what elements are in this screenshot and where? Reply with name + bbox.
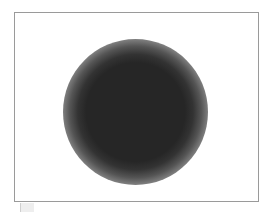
blurred-dark-circle: [63, 39, 208, 185]
corner-tab: [20, 203, 34, 212]
canvas: [0, 0, 275, 212]
